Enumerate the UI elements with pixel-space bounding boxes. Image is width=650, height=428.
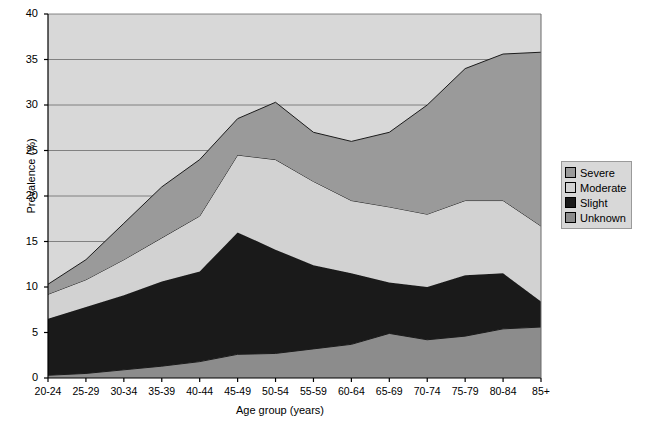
y-tick-label: 25 [8,144,38,156]
y-tick-label: 0 [8,371,38,383]
legend-item-label: Moderate [580,182,626,194]
legend-item-moderate[interactable]: Moderate [565,180,626,195]
y-tick-label: 10 [8,280,38,292]
y-axis-title: Prevalence (%) [25,121,37,231]
y-tick-label: 20 [8,189,38,201]
legend-swatch-icon [565,212,576,223]
legend-swatch-icon [565,197,576,208]
legend-item-slight[interactable]: Slight [565,195,626,210]
chart-legend: SevereModerateSlightUnknown [561,161,632,229]
legend-swatch-icon [565,182,576,193]
x-axis-title: Age group (years) [0,404,560,416]
stacked-area-plot [0,0,560,400]
legend-item-unknown[interactable]: Unknown [565,210,626,225]
y-tick-label: 30 [8,98,38,110]
legend-item-severe[interactable]: Severe [565,165,626,180]
x-tick-label: 85+ [517,385,565,397]
y-tick-label: 5 [8,326,38,338]
chart-container: Prevalence (%) Age group (years) 0510152… [0,0,650,428]
legend-item-label: Unknown [580,212,626,224]
legend-item-label: Severe [580,167,615,179]
y-tick-label: 40 [8,7,38,19]
legend-item-label: Slight [580,197,608,209]
y-tick-label: 35 [8,53,38,65]
legend-swatch-icon [565,167,576,178]
y-tick-label: 15 [8,235,38,247]
